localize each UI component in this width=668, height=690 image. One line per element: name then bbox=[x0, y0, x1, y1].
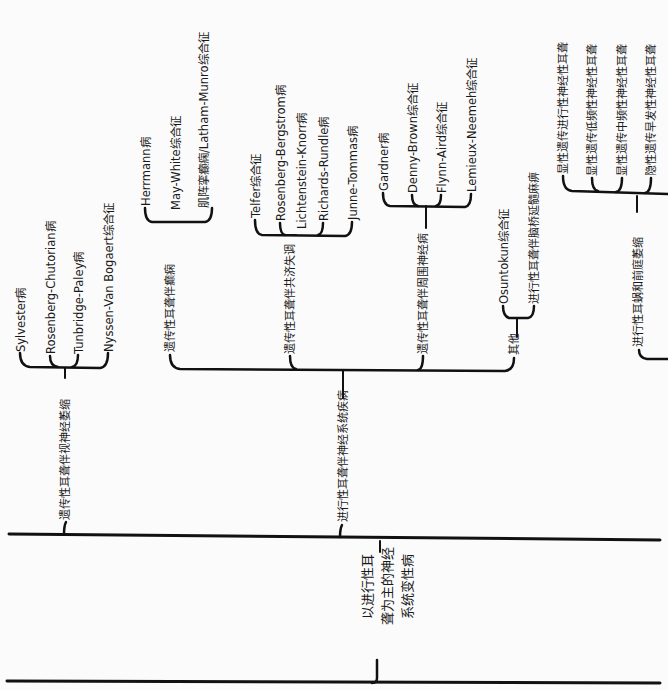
sub-epilepsy: 遗传性耳聋伴癫痫 bbox=[164, 264, 178, 352]
leaf-junne-tommas: Junne-Tommas病 bbox=[346, 126, 360, 220]
leaf-rosenberg-chutorian: Rosenberg-Chutorian病 bbox=[44, 221, 58, 354]
leaf-lemieux-neemeh: Lemieux-Neemeh综合征 bbox=[465, 58, 479, 192]
leaf-may-white: May-White综合征 bbox=[169, 116, 183, 210]
mind-map-canvas: 以进行性耳 聋为主的神经 系统变性病 遗传性耳聋伴视神经萎缩 进行性耳聋伴神经系… bbox=[0, 0, 668, 690]
branch-cochlear-vestibular: 进行性耳蜗和前庭萎缩 bbox=[632, 237, 646, 347]
leaf-dominant-progressive: 显性遗传进行性神经性耳聋 bbox=[557, 42, 571, 174]
sub-peripheral-neuropathy: 遗传性耳聋伴周围神经病 bbox=[417, 233, 431, 354]
leaf-lichtenstein-knorr: Lichtenstein-Knorr病 bbox=[295, 113, 309, 229]
sub-ataxia: 遗传性耳聋伴共济失调 bbox=[284, 244, 298, 354]
leaf-dominant-mid-frequency: 显性遗传中频性神经性耳聋 bbox=[616, 44, 630, 176]
leaf-rosenberg-bergstrom: Rosenberg-Bergstrom病 bbox=[274, 85, 288, 221]
leaf-latham-munro: 肌阵挛癫痫/Latham-Munro综合征 bbox=[197, 32, 211, 208]
leaf-recessive-early-onset: 隐性遗传早发性神经性耳聋 bbox=[645, 44, 659, 176]
leaf-pontobulbar-palsy: 进行性耳聋伴脑桥延髓麻痹 bbox=[528, 172, 542, 304]
leaf-tunbridge-paley: Tunbridge-Paley病 bbox=[72, 252, 86, 354]
leaf-gardner: Gardner病 bbox=[377, 133, 391, 191]
leaf-richards-rundle: Richards-Rundle病 bbox=[317, 117, 331, 221]
root-node: 以进行性耳 聋为主的神经 系统变性病 bbox=[358, 536, 418, 636]
leaf-denny-brown: Denny-Brown综合征 bbox=[406, 83, 420, 193]
root-line-1: 以进行性耳 bbox=[358, 536, 378, 636]
leaf-nyssen-van-bogaert: Nyssen-Van Bogaert综合征 bbox=[102, 203, 116, 352]
root-line-3: 系统变性病 bbox=[398, 536, 418, 636]
leaf-osuntokun: Osuntokun综合征 bbox=[497, 209, 511, 304]
root-line-2: 聋为主的神经 bbox=[378, 536, 398, 636]
leaf-dominant-low-frequency: 显性遗传低频性神经性耳聋 bbox=[586, 44, 600, 176]
leaf-telfer: Telfer综合征 bbox=[249, 154, 263, 218]
branch-optic-atrophy: 遗传性耳聋伴视神经萎缩 bbox=[59, 399, 73, 520]
sub-other: 其他 bbox=[508, 333, 522, 355]
leaf-herrmann: Herrmann病 bbox=[139, 137, 153, 206]
leaf-sylvester: Sylvester病 bbox=[14, 288, 28, 353]
leaf-flynn-aird: Flynn-Aird综合征 bbox=[435, 102, 449, 193]
branch-neuro-disease: 进行性耳聋伴神经系统疾病 bbox=[337, 390, 351, 522]
